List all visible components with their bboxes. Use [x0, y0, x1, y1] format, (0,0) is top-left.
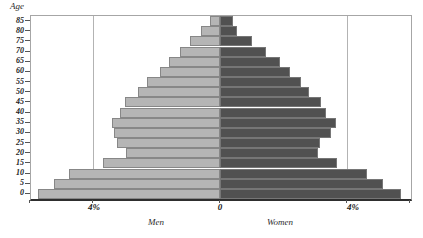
women-bar-age-65 — [220, 57, 280, 67]
age-tick — [25, 40, 30, 41]
men-bar-age-45 — [125, 97, 220, 107]
men-bar-age-10 — [69, 169, 220, 179]
women-bar-age-85 — [220, 16, 233, 26]
age-tick-label: 25 — [4, 138, 24, 147]
age-tick — [25, 162, 30, 163]
age-tick-label: 45 — [4, 97, 24, 106]
age-tick — [25, 152, 30, 153]
men-bar-age-55 — [147, 77, 220, 87]
x-tick-label-right-4pct: 4% — [347, 202, 359, 212]
women-bar-age-35 — [220, 118, 336, 128]
women-bar-age-60 — [220, 67, 290, 77]
men-bar-age-40 — [120, 108, 220, 118]
men-series-label: Men — [148, 217, 164, 227]
men-bar-age-20 — [126, 148, 220, 158]
age-tick — [25, 183, 30, 184]
age-tick-label: 55 — [4, 77, 24, 86]
women-series-label: Women — [267, 217, 293, 227]
men-bar-age-5 — [54, 179, 220, 189]
women-bar-age-40 — [220, 108, 326, 118]
women-bar-age-55 — [220, 77, 301, 87]
age-tick-label: 75 — [4, 36, 24, 45]
men-bar-age-75 — [190, 36, 220, 46]
age-tick-label: 30 — [4, 127, 24, 136]
men-bar-age-30 — [114, 128, 220, 138]
women-bar-age-20 — [220, 148, 318, 158]
women-bar-age-70 — [220, 47, 266, 57]
men-bar-age-35 — [112, 118, 220, 128]
men-bar-age-80 — [201, 26, 220, 36]
age-tick — [25, 71, 30, 72]
women-bar-age-15 — [220, 158, 337, 168]
age-tick — [25, 142, 30, 143]
age-tick-label: 85 — [4, 16, 24, 25]
age-tick — [25, 122, 30, 123]
women-bar-age-80 — [220, 26, 237, 36]
men-bar-age-65 — [169, 57, 220, 67]
x-tick-label-left-4pct: 4% — [88, 202, 100, 212]
women-bar-age-5 — [220, 179, 383, 189]
x-axis-tick — [92, 200, 93, 203]
age-tick — [25, 30, 30, 31]
age-tick — [25, 173, 30, 174]
men-bar-age-85 — [210, 16, 220, 26]
men-bar-age-60 — [160, 67, 220, 77]
women-bar-age-45 — [220, 97, 321, 107]
population-pyramid-chart: Age 4% 0 4% Men Women 858075706560555045… — [0, 0, 423, 238]
age-axis-title: Age — [10, 1, 24, 11]
age-tick — [25, 132, 30, 133]
age-tick-label: 65 — [4, 56, 24, 65]
age-tick — [25, 112, 30, 113]
men-bar-age-70 — [180, 47, 220, 57]
age-tick — [25, 193, 30, 194]
x-axis-tick — [409, 200, 410, 203]
men-bar-age-25 — [117, 138, 220, 148]
age-tick — [25, 91, 30, 92]
age-tick-label: 40 — [4, 107, 24, 116]
age-tick-label: 20 — [4, 148, 24, 157]
women-bar-age-0 — [220, 189, 401, 199]
x-axis-tick — [346, 200, 347, 203]
age-tick — [25, 20, 30, 21]
men-bar-age-0 — [38, 189, 220, 199]
women-bar-age-25 — [220, 138, 320, 148]
women-bar-age-50 — [220, 87, 309, 97]
women-bar-age-75 — [220, 36, 252, 46]
age-tick-label: 10 — [4, 168, 24, 177]
age-tick-label: 5 — [4, 178, 24, 187]
age-tick — [25, 61, 30, 62]
age-tick-label: 70 — [4, 46, 24, 55]
age-tick-label: 50 — [4, 87, 24, 96]
women-bar-age-30 — [220, 128, 331, 138]
age-tick-label: 0 — [4, 188, 24, 197]
age-tick — [25, 51, 30, 52]
x-axis-tick — [219, 200, 220, 203]
x-tick-label-zero: 0 — [218, 202, 223, 212]
women-bar-age-10 — [220, 169, 367, 179]
age-tick-label: 35 — [4, 117, 24, 126]
men-bar-age-15 — [103, 158, 220, 168]
age-tick — [25, 101, 30, 102]
x-axis-tick — [29, 200, 30, 203]
age-tick — [25, 81, 30, 82]
age-tick-label: 15 — [4, 158, 24, 167]
plot-area — [30, 15, 412, 201]
age-tick-label: 60 — [4, 66, 24, 75]
men-bar-age-50 — [138, 87, 220, 97]
age-tick-label: 80 — [4, 26, 24, 35]
